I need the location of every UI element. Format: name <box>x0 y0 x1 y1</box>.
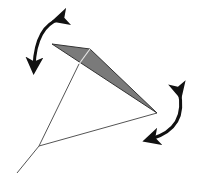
rotation-arrow-top-left-icon <box>34 19 60 66</box>
rotation-arrow-right-icon <box>151 91 181 139</box>
tail-line <box>17 146 39 173</box>
diagram-svg <box>0 0 198 186</box>
front-line <box>39 64 79 146</box>
wing-shape <box>52 44 157 113</box>
rear-line <box>39 113 157 146</box>
diagram-canvas <box>0 0 198 186</box>
